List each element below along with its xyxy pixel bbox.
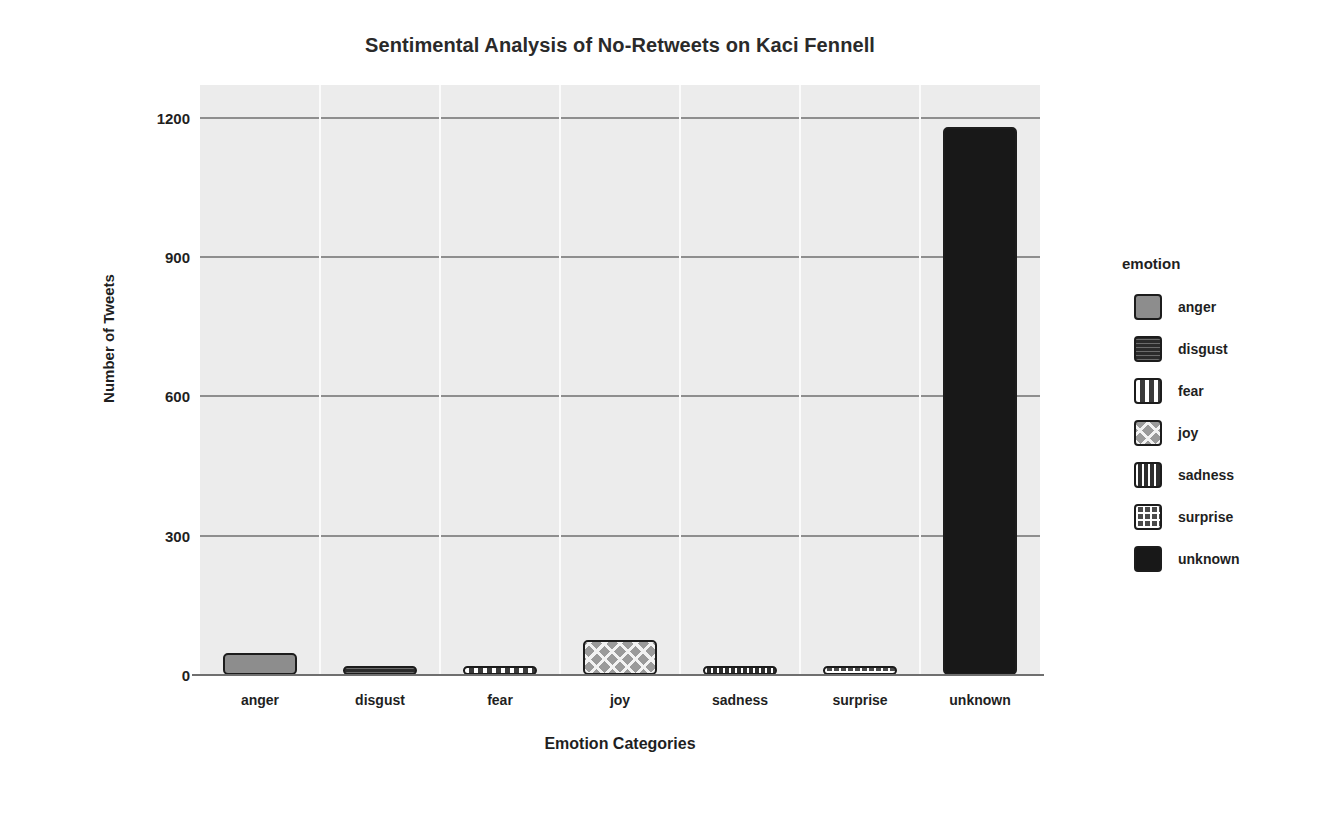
legend-swatch-icon: [1134, 294, 1162, 320]
legend-label: joy: [1178, 425, 1198, 441]
gridline-vertical: [319, 85, 321, 675]
gridline-vertical: [919, 85, 921, 675]
legend-item-disgust[interactable]: disgust: [1120, 328, 1320, 370]
legend-label: surprise: [1178, 509, 1233, 525]
legend-item-sadness[interactable]: sadness: [1120, 454, 1320, 496]
bar-joy: [583, 640, 657, 675]
legend-entries: angerdisgustfearjoysadnesssurpriseunknow…: [1120, 286, 1320, 580]
gridline-vertical: [559, 85, 561, 675]
gridline-vertical: [439, 85, 441, 675]
y-tick-label: 0: [130, 667, 190, 684]
legend-label: sadness: [1178, 467, 1234, 483]
x-tick-label-unknown: unknown: [900, 692, 1060, 708]
legend-item-joy[interactable]: joy: [1120, 412, 1320, 454]
bar-anger: [223, 653, 297, 675]
y-axis-tick-labels: 03006009001200: [110, 0, 190, 816]
y-tick-label: 1200: [130, 109, 190, 126]
legend-label: anger: [1178, 299, 1216, 315]
chart-container: Sentimental Analysis of No-Retweets on K…: [0, 0, 1331, 816]
y-axis-title: Number of Tweets: [100, 209, 117, 469]
gridline-vertical: [799, 85, 801, 675]
legend-swatch-icon: [1134, 336, 1162, 362]
legend-swatch-icon: [1134, 420, 1162, 446]
legend-label: disgust: [1178, 341, 1228, 357]
legend-swatch-icon: [1134, 504, 1162, 530]
legend: emotion angerdisgustfearjoysadnesssurpri…: [1120, 255, 1320, 580]
legend-item-fear[interactable]: fear: [1120, 370, 1320, 412]
legend-label: unknown: [1178, 551, 1239, 567]
legend-item-anger[interactable]: anger: [1120, 286, 1320, 328]
bar-unknown: [943, 127, 1017, 675]
gridline: [200, 535, 1040, 537]
y-tick-label: 600: [130, 388, 190, 405]
gridline: [200, 256, 1040, 258]
legend-swatch-icon: [1134, 378, 1162, 404]
legend-label: fear: [1178, 383, 1204, 399]
legend-swatch-icon: [1134, 462, 1162, 488]
x-axis-title: Emotion Categories: [200, 735, 1040, 753]
chart-title: Sentimental Analysis of No-Retweets on K…: [200, 34, 1040, 57]
y-tick-label: 300: [130, 527, 190, 544]
legend-item-surprise[interactable]: surprise: [1120, 496, 1320, 538]
legend-swatch-icon: [1134, 546, 1162, 572]
gridline-vertical: [679, 85, 681, 675]
gridline: [200, 395, 1040, 397]
plot-area: [200, 85, 1040, 675]
y-tick-label: 900: [130, 248, 190, 265]
gridline: [200, 117, 1040, 119]
x-axis-line: [192, 674, 1044, 676]
legend-item-unknown[interactable]: unknown: [1120, 538, 1320, 580]
legend-title: emotion: [1122, 255, 1320, 272]
